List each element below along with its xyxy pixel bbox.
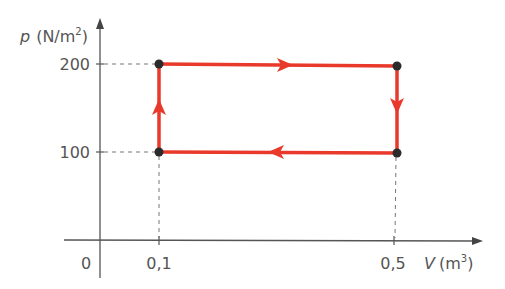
x-axis-label: V(m3) (424, 253, 473, 273)
x-axis (64, 240, 474, 241)
y-axis-label: p(N/m2) (19, 26, 88, 46)
x-tick-label-0-5: 0,5 (380, 254, 405, 273)
point-a (155, 60, 164, 69)
origin-label: 0 (81, 254, 91, 273)
state-points (155, 60, 402, 158)
point-b (393, 62, 402, 71)
x-axis-arrow-icon (472, 237, 483, 245)
y-axis-arrow-icon (96, 18, 104, 29)
pv-diagram: p(N/m2) 200 100 0 0,1 0,5 V(m3) (0, 0, 505, 289)
cycle-path (159, 64, 397, 153)
x-tick-label-0-1: 0,1 (146, 254, 171, 273)
y-tick-label-200: 200 (59, 55, 90, 74)
y-tick-label-100: 100 (59, 143, 90, 162)
point-d (155, 148, 164, 157)
point-c (393, 149, 402, 158)
